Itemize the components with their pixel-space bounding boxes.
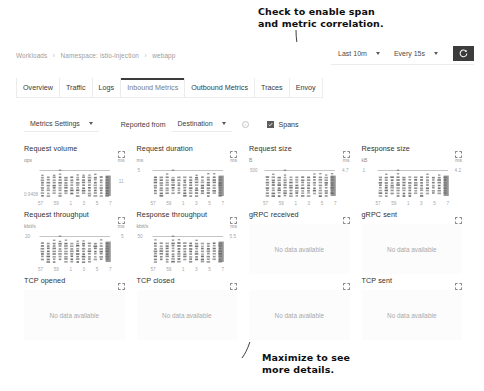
- annotation-spans-note: Check to enable spanand metric correlati…: [258, 6, 384, 29]
- y-axis-unit-right: ms: [118, 157, 125, 163]
- y-axis-max-right: 4.7: [342, 168, 348, 173]
- annotation-line: and metric correlation.: [258, 18, 384, 30]
- maximize-icon[interactable]: [230, 283, 237, 290]
- no-data-message: No data available: [249, 224, 350, 274]
- y-axis-min-left: 0.9408: [24, 192, 38, 197]
- tab-inbound-metrics[interactable]: Inbound Metrics: [121, 78, 185, 97]
- y-axis-max-right: 4.2: [455, 168, 461, 173]
- maximize-button[interactable]: [114, 276, 125, 294]
- scatter-plot-area[interactable]: [263, 165, 337, 198]
- x-axis-tick-label: 7: [109, 201, 112, 206]
- breadcrumb-item-namespace[interactable]: Namespace: istio-injection: [61, 52, 140, 59]
- y-axis-unit-left: ops: [24, 157, 32, 163]
- scatter-plot-area[interactable]: [151, 231, 225, 264]
- scatter-plot-area[interactable]: [151, 165, 225, 198]
- x-axis-tick-label: 7: [446, 201, 449, 206]
- maximize-button[interactable]: [451, 276, 462, 294]
- reported-from-label: Reported from: [121, 121, 166, 128]
- maximize-icon[interactable]: [343, 283, 350, 290]
- maximize-button[interactable]: [226, 276, 237, 294]
- metric-card-request-size: Request sizeBms5004.757591357: [245, 142, 354, 208]
- metric-card-title: Request size: [249, 144, 292, 153]
- y-axis-unit-left: ms: [137, 157, 144, 163]
- metrics-settings-label: Metrics Settings: [30, 120, 80, 127]
- x-axis-tick-label: 3: [83, 201, 86, 206]
- maximize-icon[interactable]: [455, 217, 462, 224]
- maximize-button[interactable]: [451, 210, 462, 228]
- metric-card-tcp-sent: TCP sentNo data available: [358, 274, 467, 340]
- metric-card-title: Request volume: [24, 144, 77, 153]
- y-axis-max-left: 1: [363, 168, 366, 173]
- x-axis-tick-label: 7: [221, 201, 224, 206]
- metric-plot[interactable]: kBms14.257591357: [362, 156, 463, 206]
- metric-card-title: Response size: [362, 144, 410, 153]
- y-axis-unit-left: kbit/s: [137, 223, 149, 229]
- metric-card-header: Request volume: [24, 144, 125, 156]
- x-axis-ticks: 57591357: [263, 201, 337, 206]
- maximize-button[interactable]: [339, 210, 350, 228]
- metric-card-header: gRPC received: [249, 210, 350, 222]
- y-axis-unit-left: kbit/s: [24, 223, 36, 229]
- x-axis-tick-label: 59: [279, 201, 284, 206]
- x-axis-ticks: 57591357: [151, 201, 225, 206]
- no-data-message: No data available: [249, 290, 350, 340]
- tab-label: Envoy: [296, 83, 316, 92]
- annotation-line: Maximize to see: [262, 352, 350, 364]
- maximize-icon[interactable]: [343, 217, 350, 224]
- y-axis-unit-right: ms: [118, 223, 125, 229]
- chevron-down-icon: [376, 52, 380, 55]
- tab-traffic[interactable]: Traffic: [60, 78, 93, 97]
- metrics-grid: Request volumeopsms0.94081157591357Reque…: [20, 142, 466, 340]
- metric-card-tcp-closed: TCP closedNo data available: [133, 274, 242, 340]
- info-icon[interactable]: i: [242, 121, 249, 128]
- metric-plot[interactable]: msms557591357: [137, 156, 238, 206]
- metrics-settings-toolbar: Metrics Settings Reported from Destinati…: [24, 116, 316, 132]
- metric-plot[interactable]: Bms5004.757591357: [249, 156, 350, 206]
- reported-from-select[interactable]: Destination: [172, 116, 232, 132]
- metrics-settings-dropdown[interactable]: Metrics Settings: [24, 116, 99, 132]
- no-data-message: No data available: [137, 290, 238, 340]
- maximize-icon[interactable]: [455, 283, 462, 290]
- x-axis-tick-label: 57: [151, 201, 156, 206]
- maximize-icon[interactable]: [118, 283, 125, 290]
- x-axis-tick-label: 1: [69, 267, 72, 272]
- breadcrumb-item-workloads[interactable]: Workloads: [16, 52, 47, 59]
- tab-label: Traces: [261, 83, 283, 92]
- x-axis-tick-label: 1: [407, 201, 410, 206]
- scatter-plot-area[interactable]: [38, 231, 112, 264]
- metric-card-request-throughput: Request throughputkbit/sms20557591357: [20, 208, 129, 274]
- spans-toggle[interactable]: Spans: [267, 121, 299, 128]
- metric-card-header: TCP opened: [24, 276, 125, 288]
- metric-plot[interactable]: kbit/sms505.557591357: [137, 222, 238, 272]
- x-axis-tick-label: 57: [151, 267, 156, 272]
- refresh-interval-select[interactable]: Every 15s: [387, 47, 445, 60]
- tab-outbound-metrics[interactable]: Outbound Metrics: [185, 78, 255, 97]
- refresh-icon: [459, 49, 468, 58]
- metrics-dashboard-panel: Workloads › Namespace: istio-injection ›…: [8, 42, 476, 342]
- metric-plot[interactable]: opsms0.94081157591357: [24, 156, 125, 206]
- x-axis-tick-label: 7: [334, 201, 337, 206]
- tab-traces[interactable]: Traces: [255, 78, 290, 97]
- scatter-plot-area[interactable]: [38, 165, 112, 198]
- tab-logs[interactable]: Logs: [93, 78, 122, 97]
- x-axis-tick-label: 57: [376, 201, 381, 206]
- x-axis-tick-label: 3: [420, 201, 423, 206]
- annotation-maximize-note: Maximize to seemore details.: [262, 352, 350, 375]
- x-axis-tick-label: 5: [208, 201, 211, 206]
- metric-card-header: TCP sent: [362, 276, 463, 288]
- scatter-plot-area[interactable]: [376, 165, 450, 198]
- metric-card-title: TCP closed: [137, 276, 175, 285]
- tab-overview[interactable]: Overview: [16, 78, 60, 97]
- refresh-button[interactable]: [453, 46, 474, 61]
- metric-plot[interactable]: kbit/sms20557591357: [24, 222, 125, 272]
- spans-checkbox[interactable]: [267, 121, 274, 128]
- tab-envoy[interactable]: Envoy: [290, 78, 323, 97]
- x-axis-tick-label: 3: [195, 267, 198, 272]
- maximize-button[interactable]: [339, 276, 350, 294]
- y-axis-unit-right: ms: [343, 157, 350, 163]
- y-axis-unit-right: ms: [230, 157, 237, 163]
- x-axis-tick-label: 5: [96, 267, 99, 272]
- metric-card-header: Response throughput: [137, 210, 238, 222]
- refresh-interval-label: Every 15s: [394, 50, 425, 57]
- time-range-select[interactable]: Last 10m: [331, 47, 387, 60]
